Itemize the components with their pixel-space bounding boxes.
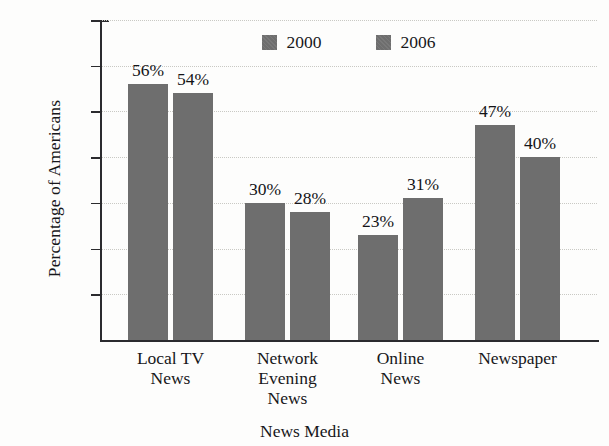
bar-value-label: 47% <box>465 101 525 122</box>
y-tick-30% <box>91 203 102 205</box>
y-tick-40% <box>91 157 102 159</box>
bar-value-label: 40% <box>510 133 570 154</box>
x-axis-title: News Media <box>0 421 609 442</box>
y-tick-60% <box>91 66 102 68</box>
legend-label-2000: 2000 <box>287 34 322 52</box>
x-axis-line <box>100 340 599 342</box>
bar-online-news-2006 <box>403 198 443 340</box>
legend-item-2006: 2006 <box>376 34 436 52</box>
plot-area: 56%54%30%28%23%31%47%40% 2000 2006 <box>100 20 597 342</box>
legend: 2000 2006 <box>100 34 597 52</box>
category-label-line: Newspaper <box>443 349 592 369</box>
bar-value-label: 28% <box>280 188 340 209</box>
y-tick-50% <box>91 111 102 113</box>
bar-value-label: 23% <box>348 211 408 232</box>
bar-local-tv-news-2000 <box>128 84 168 340</box>
bar-local-tv-news-2006 <box>173 93 213 340</box>
legend-swatch-2000-icon <box>262 35 277 50</box>
y-tick-10% <box>91 294 102 296</box>
y-tick-20% <box>91 249 102 251</box>
legend-item-2000: 2000 <box>262 34 322 52</box>
gridline-70% <box>102 20 597 21</box>
legend-swatch-2006-icon <box>376 35 391 50</box>
category-label-newspaper: Newspaper <box>443 349 592 369</box>
category-label-line: News <box>326 369 475 389</box>
bar-value-label: 54% <box>163 69 223 90</box>
bar-online-news-2000 <box>358 235 398 340</box>
bar-newspaper-2000 <box>475 125 515 340</box>
legend-label-2006: 2006 <box>401 34 436 52</box>
bar-network-evening-news-2000 <box>245 203 285 340</box>
category-label-line: News <box>213 389 362 409</box>
y-tick-70% <box>91 20 102 22</box>
bar-network-evening-news-2006 <box>290 212 330 340</box>
bar-newspaper-2006 <box>520 157 560 340</box>
bar-value-label: 31% <box>393 174 453 195</box>
y-axis-title: Percentage of Americans <box>44 39 65 339</box>
bar-chart: Percentage of Americans 56%54%30%28%23%3… <box>0 0 609 446</box>
